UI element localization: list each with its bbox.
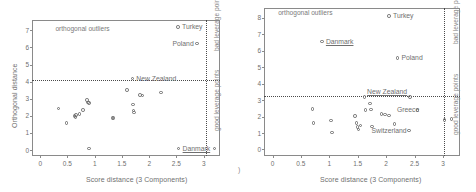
y-tick-left-0 — [30, 150, 32, 151]
x-tick-right-5 — [415, 156, 416, 158]
two-panel-scatter-figure: Orthogonal distance Score distance (3 Co… — [0, 0, 476, 192]
y-tick-right-2 — [262, 117, 264, 118]
x-tick-label-right-0: 0 — [263, 160, 283, 167]
point-label-left-3: Danmark — [183, 145, 211, 152]
data-point-left-24 — [159, 91, 163, 95]
panel-right: ) Score distance (3 Components) 00.511.5… — [238, 0, 476, 192]
y-tick-label-left-4: 4 — [21, 78, 29, 85]
point-label-right-25: Switzerland — [372, 127, 407, 134]
x-tick-label-right-4: 2 — [376, 160, 396, 167]
annotation-right-2: good leverage points — [452, 73, 459, 134]
y-axis-label-left: Orthogonal distance — [11, 63, 18, 128]
data-point-right-25 — [407, 129, 411, 133]
x-tick-right-4 — [386, 156, 387, 158]
x-tick-left-5 — [176, 156, 177, 158]
y-tick-label-right-5: 5 — [253, 64, 261, 71]
annotation-left-1: bad leverage points — [213, 0, 220, 51]
panel-left: Orthogonal distance Score distance (3 Co… — [0, 0, 238, 192]
x-tick-left-2 — [95, 156, 96, 158]
y-tick-right-4 — [262, 84, 264, 85]
y-tick-label-left-6: 6 — [21, 44, 29, 51]
y-tick-right-0 — [262, 149, 264, 150]
point-label-right-1: Danmark — [326, 38, 354, 45]
data-point-right-11 — [355, 121, 359, 125]
x-tick-label-left-5: 2.5 — [166, 160, 186, 167]
y-tick-label-right-2: 2 — [253, 113, 261, 120]
annotation-right-1: bad leverage points — [452, 0, 459, 44]
y-tick-left-5 — [30, 65, 32, 66]
x-tick-left-0 — [40, 156, 41, 158]
data-point-left-6 — [65, 121, 69, 125]
annotation-right-0: orthogonal outliers — [278, 9, 332, 16]
y-tick-left-4 — [30, 82, 32, 83]
x-tick-right-3 — [358, 156, 359, 158]
data-point-left-18 — [125, 88, 129, 92]
x-tick-label-left-1: 0.5 — [57, 160, 77, 167]
y-tick-label-right-4: 4 — [253, 80, 261, 87]
x-tick-right-6 — [443, 156, 444, 158]
y-tick-label-left-2: 2 — [21, 112, 29, 119]
y-tick-right-3 — [262, 100, 264, 101]
data-point-left-0 — [176, 25, 180, 29]
point-label-right-2: Poland — [402, 54, 423, 61]
plot-area-right — [264, 8, 460, 156]
y-tick-label-right-8: 8 — [253, 14, 261, 21]
annotation-left-0: orthogonal outliers — [55, 25, 109, 32]
data-point-left-14 — [87, 101, 91, 105]
x-tick-left-3 — [122, 156, 123, 158]
y-tick-label-right-3: 3 — [253, 97, 261, 104]
data-point-right-10 — [353, 114, 357, 118]
x-tick-right-0 — [273, 156, 274, 158]
data-point-right-0 — [387, 14, 391, 18]
y-tick-left-3 — [30, 99, 32, 100]
point-label-right-0: Turkey — [393, 12, 414, 19]
x-tick-right-1 — [301, 156, 302, 158]
panel-corner-mark: ) — [238, 166, 240, 173]
y-tick-label-left-3: 3 — [21, 95, 29, 102]
point-label-left-2: New Zealand — [136, 75, 176, 82]
x-tick-label-right-6: 3 — [433, 160, 453, 167]
point-label-left-0: Turkey — [182, 23, 203, 30]
y-tick-label-left-7: 7 — [21, 27, 29, 34]
data-point-left-10 — [78, 112, 82, 116]
x-tick-label-left-3: 1.5 — [112, 160, 132, 167]
annotation-left-2: good leverage points — [213, 70, 220, 131]
x-tick-left-1 — [67, 156, 68, 158]
y-tick-label-left-0: 0 — [21, 147, 29, 154]
data-point-right-7 — [312, 121, 316, 125]
point-label-right-24: Greece — [397, 106, 419, 113]
x-tick-label-right-1: 0.5 — [291, 160, 311, 167]
x-axis-label-right: Score distance (3 Components) — [320, 176, 421, 183]
x-tick-label-right-3: 1.5 — [348, 160, 368, 167]
x-tick-left-4 — [149, 156, 150, 158]
point-label-right-3: New Zealand — [367, 88, 407, 95]
x-tick-right-2 — [329, 156, 330, 158]
cutoff-vertical-right — [444, 8, 445, 156]
data-point-left-19 — [131, 103, 135, 107]
data-point-right-18 — [369, 108, 373, 112]
y-tick-left-2 — [30, 116, 32, 117]
y-tick-right-7 — [262, 34, 264, 35]
y-tick-label-right-6: 6 — [253, 47, 261, 54]
point-label-left-1: Poland — [173, 40, 194, 47]
y-tick-right-8 — [262, 18, 264, 19]
y-tick-label-right-0: 0 — [253, 146, 261, 153]
y-tick-label-left-1: 1 — [21, 129, 29, 136]
data-point-left-11 — [81, 108, 85, 112]
x-tick-label-left-6: 3 — [194, 160, 214, 167]
y-tick-left-1 — [30, 133, 32, 134]
y-tick-label-right-7: 7 — [253, 31, 261, 38]
y-tick-label-right-1: 1 — [253, 130, 261, 137]
y-tick-label-left-5: 5 — [21, 61, 29, 68]
x-tick-label-left-2: 1 — [85, 160, 105, 167]
x-axis-label-left: Score distance (3 Components) — [86, 176, 187, 183]
y-tick-left-7 — [30, 30, 32, 31]
y-tick-right-6 — [262, 51, 264, 52]
x-tick-label-right-2: 1 — [319, 160, 339, 167]
y-tick-left-6 — [30, 47, 32, 48]
y-tick-right-1 — [262, 133, 264, 134]
cutoff-vertical-left — [206, 20, 207, 156]
y-tick-right-5 — [262, 67, 264, 68]
data-point-right-5 — [450, 117, 454, 121]
x-tick-label-right-5: 2.5 — [405, 160, 425, 167]
